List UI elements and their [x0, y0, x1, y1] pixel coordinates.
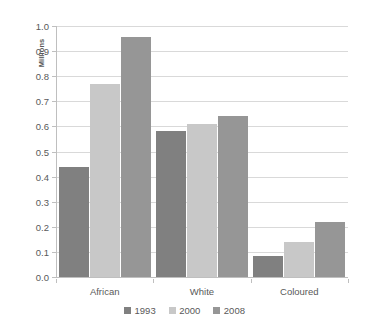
y-tick-label: 0.1: [36, 246, 49, 257]
bar-group: [251, 26, 348, 277]
legend-label: 1993: [135, 306, 156, 316]
x-tick-mark: [348, 279, 349, 283]
bar: [156, 131, 186, 277]
x-axis-labels: AfricanWhiteColoured: [56, 279, 348, 297]
bar: [253, 256, 283, 277]
legend-label: 2008: [224, 306, 245, 316]
y-tick-label: 0.8: [36, 71, 49, 82]
x-axis-label: Coloured: [251, 279, 348, 297]
x-tick-mark: [153, 279, 154, 283]
legend-label: 2000: [179, 306, 200, 316]
bar: [187, 124, 217, 277]
x-tick-mark: [251, 279, 252, 283]
bar: [284, 242, 314, 277]
x-axis-label: African: [56, 279, 153, 297]
bar: [315, 222, 345, 277]
bar-group: [56, 26, 153, 277]
bar: [121, 37, 151, 277]
legend-item[interactable]: 2008: [213, 306, 245, 316]
bar-group: [153, 26, 250, 277]
y-tick-label: 0.7: [36, 96, 49, 107]
legend-item[interactable]: 1993: [124, 306, 156, 316]
y-tick-label: 0.5: [36, 146, 49, 157]
y-tick-label: 1.0: [36, 21, 49, 32]
legend-swatch-icon: [124, 307, 131, 314]
bar-chart: Millions 1.00.90.80.70.60.50.40.30.20.10…: [0, 0, 369, 330]
plot-area: 1.00.90.80.70.60.50.40.30.20.10.0: [56, 26, 348, 277]
x-tick-mark: [56, 279, 57, 283]
chart-legend: 199320002008: [0, 306, 369, 316]
legend-item[interactable]: 2000: [169, 306, 201, 316]
y-tick-label: 0.4: [36, 171, 49, 182]
x-axis-label: White: [153, 279, 250, 297]
y-tick-label: 0.6: [36, 121, 49, 132]
bar: [90, 84, 120, 277]
bar: [59, 167, 89, 277]
y-tick-label: 0.3: [36, 196, 49, 207]
y-tick-label: 0.9: [36, 46, 49, 57]
legend-swatch-icon: [213, 307, 220, 314]
y-tick-label: 0.2: [36, 221, 49, 232]
legend-swatch-icon: [169, 307, 176, 314]
gridline: [56, 277, 348, 278]
y-tick-mark: [52, 277, 56, 278]
y-tick-label: 0.0: [36, 272, 49, 283]
bar: [218, 116, 248, 277]
bar-series-layer: [56, 26, 348, 277]
